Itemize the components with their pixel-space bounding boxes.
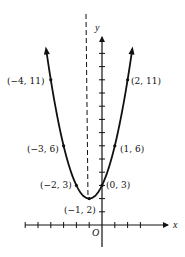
parabola-left-arrow-icon bbox=[44, 47, 50, 55]
point-label-0-3: (0, 3) bbox=[106, 180, 130, 190]
point-label-neg4-11: (−4, 11) bbox=[7, 76, 44, 86]
point-label-neg1-2: (−1, 2) bbox=[64, 205, 96, 215]
parabola-right-arrow-icon bbox=[129, 47, 135, 55]
point-marker bbox=[126, 78, 129, 81]
axis-of-symmetry-dashed-line bbox=[86, 14, 88, 199]
point-marker bbox=[113, 144, 116, 147]
x-axis-label: x bbox=[172, 219, 178, 230]
point-label-2-11: (2, 11) bbox=[131, 76, 161, 86]
point-marker bbox=[100, 184, 103, 187]
point-marker bbox=[62, 144, 65, 147]
point-label-neg2-3: (−2, 3) bbox=[40, 180, 72, 190]
y-axis-label: y bbox=[94, 22, 100, 33]
point-label-neg3-6: (−3, 6) bbox=[27, 144, 59, 154]
parabola-curve bbox=[46, 50, 132, 198]
parabola-graph: y x O (−4, 11) (2, 11) (−3, 6) (1, 6) (−… bbox=[0, 0, 185, 257]
origin-label: O bbox=[92, 227, 99, 238]
point-marker bbox=[88, 197, 91, 200]
point-marker bbox=[49, 78, 52, 81]
point-label-1-6: (1, 6) bbox=[120, 144, 144, 154]
point-marker bbox=[75, 184, 78, 187]
